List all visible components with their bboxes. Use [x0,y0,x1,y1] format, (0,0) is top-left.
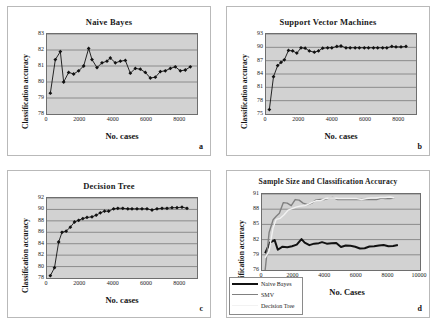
panel-b-ylabel: Classification accuracy [240,54,249,129]
legend-line-swatch [232,305,258,306]
y-axis-tick-label: 78 [257,97,263,103]
panel-b-title: Support Vector Machines [227,17,429,27]
panel-combined-sample-size: Sample Size and Classification Accuracy … [226,170,430,318]
panel-d-plot-area [261,193,421,271]
y-axis-tick-label: 81 [257,83,263,89]
data-point-marker [272,75,276,79]
y-axis-tick-label: 84 [257,70,263,76]
panel-d-letter: d [418,304,422,313]
panel-naive-bayes: Naive Bayes Classification accuracy 7879… [7,6,211,156]
data-point-marker [381,46,385,50]
data-point-marker [267,108,271,112]
data-point-marker [335,45,339,49]
plot-svg-a [47,34,197,114]
panel-c-plot-area [46,197,198,279]
data-point-marker [326,46,330,50]
series-line [265,239,398,253]
y-axis-tick-label: 80 [38,263,44,269]
legend-line-swatch [232,283,258,285]
x-axis-tick-label: 8000 [373,272,401,278]
data-point-marker [81,217,85,221]
y-axis-tick-label: 90 [257,43,263,49]
data-point-marker [48,91,52,95]
data-point-marker [362,46,366,50]
data-point-marker [77,218,81,222]
y-axis-tick-label: 87 [257,57,263,63]
y-axis-tick-label: 92 [38,194,44,200]
data-point-marker [145,207,149,211]
y-axis-tick-label: 79 [253,251,259,257]
y-axis-tick-label: 82 [253,236,259,242]
x-axis-tick-label: 6000 [351,116,379,122]
y-axis-tick-label: 81 [38,62,44,68]
x-axis-tick-label: 2000 [65,116,93,122]
data-point-marker [348,46,352,50]
data-point-marker [60,230,64,234]
x-axis-tick-label: 0 [251,116,279,122]
plot-svg-c [47,198,197,278]
panel-a-title: Naive Bayes [8,17,210,27]
legend-item: Decision Tree [230,300,302,311]
panel-c-ylabel: Classification accuracy [21,218,30,293]
y-axis-tick-label: 91 [253,190,259,196]
x-axis-tick-label: 4000 [99,280,127,286]
data-point-marker [85,216,89,220]
series-line [50,48,190,93]
data-point-marker [291,49,295,53]
data-point-marker [155,207,159,211]
series-line [50,207,187,276]
y-axis-tick-label: 84 [38,240,44,246]
data-point-marker [126,207,130,211]
data-point-marker [150,208,154,212]
data-point-marker [168,67,172,71]
x-axis-tick-label: 6000 [132,116,160,122]
panel-b-xlabel: No. cases [265,131,417,141]
panel-a-xlabel: No. cases [46,131,198,141]
panel-decision-tree: Decision Tree Classification accuracy 78… [7,170,211,318]
y-axis-tick-label: 79 [38,94,44,100]
data-point-marker [312,50,316,54]
data-point-marker [98,211,102,215]
panel-b-plot-area [265,33,417,115]
legend-line-swatch [232,294,258,295]
panel-support-vector-machines: Support Vector Machines Classification a… [226,6,430,156]
x-axis-tick-label: 2000 [284,116,312,122]
data-point-marker [353,46,357,50]
plot-svg-b [266,34,416,114]
y-axis-tick-label: 90 [38,205,44,211]
series-line [265,197,395,258]
panel-d-xlabel: No. Cases [297,287,397,297]
legend-label: Decision Tree [261,303,295,309]
x-axis-tick-label: 4000 [318,116,346,122]
data-point-marker [376,46,380,50]
y-axis-tick-label: 86 [38,228,44,234]
x-axis-tick-label: 10000 [405,272,433,278]
x-axis-tick-label: 8000 [384,116,412,122]
legend-item: Naive Bayes [230,278,302,289]
y-axis-tick-label: 82 [38,46,44,52]
panel-c-letter: c [199,304,203,313]
data-point-marker [287,49,291,53]
y-axis-tick-label: 85 [253,220,259,226]
panel-c-title: Decision Tree [8,181,210,191]
figure-panel-grid: Naive Bayes Classification accuracy 7879… [0,0,438,325]
panel-a-letter: a [199,142,203,151]
data-point-marker [180,205,184,209]
x-axis-tick-label: 2000 [65,280,93,286]
y-axis-tick-label: 80 [38,78,44,84]
y-axis-tick-label: 88 [253,205,259,211]
x-axis-tick-label: 0 [32,116,60,122]
y-axis-tick-label: 88 [38,217,44,223]
data-point-marker [404,45,408,49]
y-axis-tick-label: 82 [38,251,44,257]
x-axis-tick-label: 4000 [99,116,127,122]
data-point-marker [94,213,98,217]
y-axis-tick-label: 83 [38,30,44,36]
data-point-marker [123,59,127,63]
data-point-marker [135,207,139,211]
data-point-marker [90,215,94,219]
legend-item: SMV [230,289,302,300]
data-point-marker [372,46,376,50]
data-point-marker [118,59,122,63]
x-axis-tick-label: 6000 [132,280,160,286]
